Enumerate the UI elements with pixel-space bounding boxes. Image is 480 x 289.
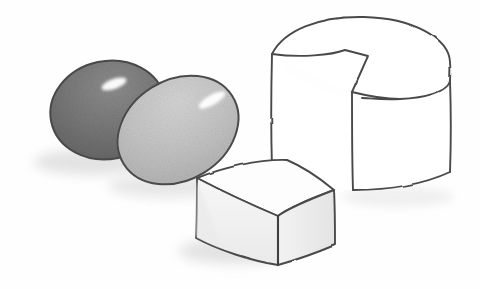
cheese-wheel-right-edge <box>450 80 451 172</box>
cheese-wheel-cut-edge <box>352 92 353 190</box>
cheese-wheel <box>271 17 451 190</box>
illustration-canvas: Still-life sketch: two eggs, a cut chees… <box>0 0 480 289</box>
cheese-wheel-left-edge <box>271 54 272 168</box>
sketch-drawing <box>0 0 480 289</box>
